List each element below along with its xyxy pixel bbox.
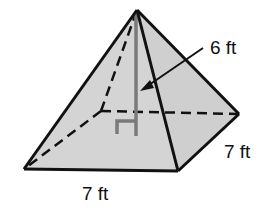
base-side-label: 7 ft bbox=[224, 142, 250, 161]
pyramid-diagram bbox=[0, 0, 273, 214]
height-label: 6 ft bbox=[210, 38, 236, 57]
base-front-label: 7 ft bbox=[82, 184, 108, 203]
